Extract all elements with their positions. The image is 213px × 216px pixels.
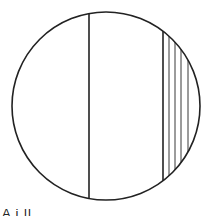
circle-diagram <box>0 0 213 216</box>
caption-text: A i ll <box>2 206 32 216</box>
circle-outline <box>12 12 200 200</box>
